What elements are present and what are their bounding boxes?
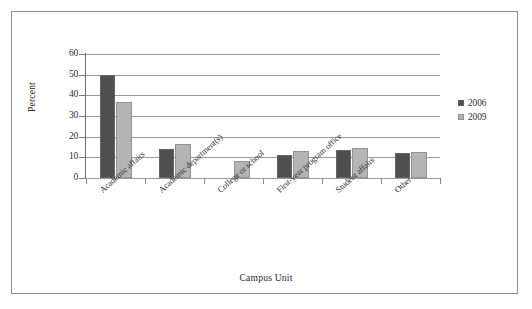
legend-item: 2009	[458, 110, 510, 124]
legend-swatch-icon	[458, 114, 464, 120]
x-axis-title: Campus Unit	[0, 272, 532, 283]
y-axis-tick-mark	[79, 157, 85, 158]
x-axis-tick-mark	[263, 179, 264, 184]
y-axis-tick-label: 0	[48, 173, 78, 183]
y-axis-tick-mark	[79, 137, 85, 138]
bar-2006	[100, 75, 116, 178]
x-axis-tick-mark	[322, 179, 323, 184]
y-axis-tick-mark	[79, 116, 85, 117]
legend-label: 2006	[468, 98, 486, 108]
y-axis-tick-label: 40	[48, 90, 78, 100]
chart-figure: 0102030405060 Percent Academic affairsAc…	[0, 0, 532, 309]
y-axis-tick-mark	[79, 75, 85, 76]
legend-label: 2009	[468, 112, 486, 122]
y-axis-tick-mark	[79, 95, 85, 96]
bar-2009	[411, 152, 427, 178]
x-axis-tick-mark	[145, 179, 146, 184]
x-axis-tick-mark	[86, 179, 87, 184]
x-axis-tick-mark	[381, 179, 382, 184]
y-axis-tick-label: 10	[48, 152, 78, 162]
legend-swatch-icon	[458, 100, 464, 106]
y-axis-tick-label: 20	[48, 132, 78, 142]
y-axis-tick-labels: 0102030405060	[44, 0, 78, 309]
y-axis-tick-label: 30	[48, 111, 78, 121]
chart-legend: 20062009	[458, 96, 510, 124]
bar-2006	[395, 153, 411, 178]
y-axis-tick-mark	[79, 54, 85, 55]
y-axis-tick-label: 60	[48, 49, 78, 59]
legend-item: 2006	[458, 96, 510, 110]
x-axis-tick-mark	[204, 179, 205, 184]
x-axis-tick-mark	[440, 179, 441, 184]
y-axis-tick-label: 50	[48, 70, 78, 80]
bar-group	[381, 54, 440, 178]
y-axis-tick-mark	[79, 178, 85, 179]
y-axis-title: Percent	[27, 57, 37, 137]
